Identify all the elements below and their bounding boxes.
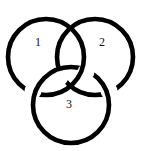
ring-label-2: 2 [99,36,105,48]
ring-label-3: 3 [66,98,72,110]
ring-label-1: 1 [35,36,41,48]
ring-2-circle [57,19,133,95]
rings-svg [0,0,142,151]
ring-1-circle [8,19,84,95]
link-diagram-figure: 1 2 3 [0,0,142,151]
